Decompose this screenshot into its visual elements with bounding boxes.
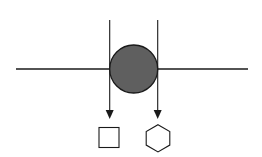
square-output-icon [99, 128, 119, 148]
left-arrowhead-icon [106, 110, 114, 119]
hexagon-output-icon [146, 125, 170, 152]
right-arrowhead-icon [154, 110, 162, 119]
diagram-canvas [0, 0, 262, 157]
filled-circle-node [110, 45, 158, 93]
